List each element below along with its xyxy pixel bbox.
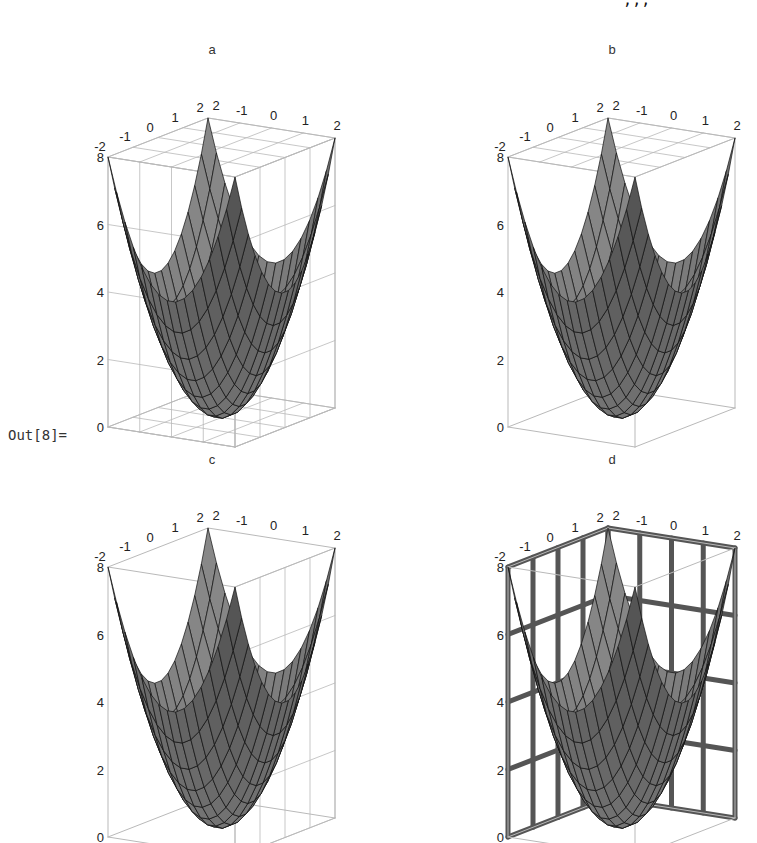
y-tick-label: 1 xyxy=(171,110,178,125)
z-tick-label: 6 xyxy=(97,218,104,233)
box-edge xyxy=(635,818,735,843)
input-cell-fragment: ,,, ] xyxy=(0,0,757,5)
y-tick-label: 2 xyxy=(196,100,203,115)
plot-title: c xyxy=(209,452,216,467)
y-tick-label: -1 xyxy=(519,129,531,144)
y-tick-label: 0 xyxy=(546,530,553,545)
x-tick-label: 2 xyxy=(212,508,219,523)
x-tick-label: 1 xyxy=(302,523,309,538)
y-tick-label: 0 xyxy=(546,120,553,135)
z-tick-label: 0 xyxy=(97,830,104,843)
y-tick-label: 1 xyxy=(171,520,178,535)
plot-title: d xyxy=(608,452,615,467)
box-edge xyxy=(635,408,735,447)
x-tick-label: 2 xyxy=(333,118,340,133)
x-tick-label: -1 xyxy=(236,103,248,118)
surface-patch xyxy=(711,170,726,234)
surface xyxy=(108,118,335,418)
surface xyxy=(508,118,735,418)
y-tick-label: 0 xyxy=(146,530,153,545)
plot-a[interactable]: a-2-10122-101202468 xyxy=(100,40,350,435)
z-tick-label: 2 xyxy=(97,763,104,778)
output-label: Out[8]= xyxy=(8,427,67,443)
x-tick-label: -1 xyxy=(636,513,648,528)
z-tick-label: 6 xyxy=(497,628,504,643)
x-tick-label: 2 xyxy=(733,528,740,543)
y-tick-label: 1 xyxy=(571,520,578,535)
box-edge xyxy=(508,837,635,843)
z-tick-label: 4 xyxy=(97,285,104,300)
surface-patch xyxy=(320,138,335,206)
x-tick-label: 1 xyxy=(702,523,709,538)
y-tick-label: -1 xyxy=(519,539,531,554)
x-tick-label: 2 xyxy=(333,528,340,543)
y-tick-label: 2 xyxy=(196,510,203,525)
y-tick-label: -1 xyxy=(119,539,131,554)
plot-title: b xyxy=(608,42,615,57)
x-tick-label: 2 xyxy=(733,118,740,133)
surface-patch xyxy=(525,222,540,278)
z-tick-label: 6 xyxy=(97,628,104,643)
plot-c[interactable]: c-2-10122-101202468 xyxy=(100,450,350,843)
z-tick-label: 4 xyxy=(97,695,104,710)
z-tick-label: 2 xyxy=(497,763,504,778)
x-tick-label: -1 xyxy=(236,513,248,528)
surface-plot-svg[interactable]: c-2-10122-101202468 xyxy=(100,450,350,843)
box-edge xyxy=(108,837,235,843)
z-tick-label: 4 xyxy=(497,695,504,710)
z-tick-label: 8 xyxy=(497,150,504,165)
x-tick-label: 2 xyxy=(612,98,619,113)
x-tick-label: 0 xyxy=(670,518,677,533)
y-tick-label: 2 xyxy=(596,510,603,525)
x-tick-label: 2 xyxy=(612,508,619,523)
z-tick-label: 2 xyxy=(97,353,104,368)
z-tick-label: 0 xyxy=(97,420,104,435)
y-tick-label: 2 xyxy=(596,100,603,115)
y-tick-label: 0 xyxy=(146,120,153,135)
plot-title: a xyxy=(208,42,216,57)
z-tick-label: 8 xyxy=(97,150,104,165)
box-edge xyxy=(508,427,635,447)
x-tick-label: 2 xyxy=(212,98,219,113)
plot-b[interactable]: b-2-10122-101202468 xyxy=(500,40,750,435)
surface-patch xyxy=(720,138,735,206)
plot-d[interactable]: d-2-10122-101202468 xyxy=(500,450,750,843)
x-tick-label: 1 xyxy=(302,113,309,128)
surface-patch xyxy=(125,222,140,278)
surface-patch xyxy=(125,632,140,688)
x-tick-label: 0 xyxy=(270,108,277,123)
x-tick-label: 0 xyxy=(270,518,277,533)
surface-patch xyxy=(320,548,335,616)
z-tick-label: 8 xyxy=(97,560,104,575)
y-tick-label: 1 xyxy=(571,110,578,125)
box-edge xyxy=(635,548,735,587)
x-tick-label: -1 xyxy=(636,103,648,118)
z-tick-label: 0 xyxy=(497,420,504,435)
z-tick-label: 6 xyxy=(497,218,504,233)
surface-plot-svg[interactable]: d-2-10122-101202468 xyxy=(500,450,750,843)
y-tick-label: -1 xyxy=(119,129,131,144)
surface-patch xyxy=(311,170,326,234)
z-tick-label: 8 xyxy=(497,560,504,575)
surface-plot-svg[interactable]: b-2-10122-101202468 xyxy=(500,40,750,435)
surface-plot-svg[interactable]: a-2-10122-101202468 xyxy=(100,40,350,435)
surface xyxy=(108,528,335,828)
z-tick-label: 4 xyxy=(497,285,504,300)
x-tick-label: 0 xyxy=(670,108,677,123)
surface-patch xyxy=(311,580,326,644)
z-tick-label: 0 xyxy=(497,830,504,843)
x-tick-label: 1 xyxy=(702,113,709,128)
z-tick-label: 2 xyxy=(497,353,504,368)
